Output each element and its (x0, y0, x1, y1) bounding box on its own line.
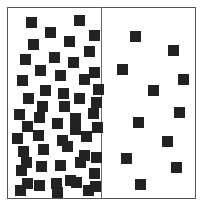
square-marker (168, 45, 179, 56)
square-marker (75, 157, 86, 168)
square-marker (26, 17, 37, 28)
square-marker (74, 93, 85, 104)
square-marker (12, 133, 23, 144)
square-marker (71, 177, 82, 188)
square-marker (34, 180, 45, 191)
square-marker (14, 109, 25, 120)
square-marker (38, 144, 49, 155)
square-marker (55, 70, 66, 81)
square-marker (162, 136, 173, 147)
square-marker (22, 121, 33, 132)
square-marker (58, 88, 69, 99)
square-marker (93, 84, 104, 95)
square-marker (121, 153, 132, 164)
square-marker (36, 161, 47, 172)
square-marker (91, 97, 102, 108)
square-marker (91, 152, 102, 163)
square-marker (79, 74, 90, 85)
square-marker (59, 101, 70, 112)
square-marker (89, 67, 100, 78)
square-marker (117, 64, 128, 75)
square-marker (89, 30, 100, 41)
square-marker (45, 27, 56, 38)
square-marker (84, 46, 95, 57)
square-marker (174, 107, 185, 118)
square-marker (23, 93, 34, 104)
square-marker (130, 31, 141, 42)
square-marker (52, 187, 63, 198)
square-marker (33, 130, 44, 141)
square-marker (20, 54, 31, 65)
square-marker (70, 124, 81, 135)
square-marker (70, 113, 81, 124)
square-marker (74, 15, 85, 26)
square-marker (89, 168, 100, 179)
square-marker (92, 122, 103, 133)
square-marker (28, 39, 39, 50)
square-marker (37, 101, 48, 112)
square-marker (62, 141, 73, 152)
square-marker (178, 74, 189, 85)
square-marker (18, 146, 29, 157)
square-marker (148, 85, 159, 96)
square-marker (34, 112, 45, 123)
square-marker (90, 181, 101, 192)
square-marker (135, 179, 146, 190)
square-marker (133, 117, 144, 128)
square-marker (17, 75, 28, 86)
square-marker (15, 185, 26, 196)
square-marker (55, 160, 66, 171)
square-marker (40, 85, 51, 96)
square-marker (35, 65, 46, 76)
square-marker (88, 108, 99, 119)
square-marker (49, 52, 60, 63)
square-marker (16, 165, 27, 176)
square-marker (64, 36, 75, 47)
square-marker (171, 162, 182, 173)
square-marker (52, 118, 63, 129)
square-marker (81, 131, 92, 142)
square-marker (68, 57, 79, 68)
